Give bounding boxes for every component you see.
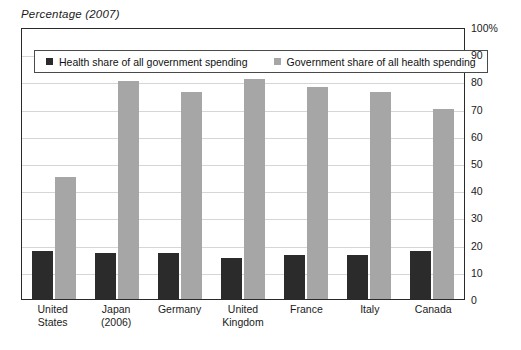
x-axis-tick-label: UnitedStates bbox=[21, 303, 84, 329]
x-axis-tick-label: France bbox=[275, 303, 338, 329]
x-axis-tick-label-line: Germany bbox=[148, 303, 211, 316]
x-axis-tick-label-line: Italy bbox=[338, 303, 401, 316]
legend-label: Government share of all health spending bbox=[287, 56, 476, 68]
y-axis-tick-label: 100% bbox=[471, 22, 498, 34]
chart-figure: Percentage (2007) Health share of all go… bbox=[0, 0, 521, 350]
y-axis-tick-label: 60 bbox=[471, 131, 483, 143]
x-axis-tick-label: UnitedKingdom bbox=[211, 303, 274, 329]
bar bbox=[118, 81, 139, 299]
bar bbox=[433, 109, 454, 299]
bar bbox=[221, 258, 242, 299]
y-axis-tick-label: 10 bbox=[471, 267, 483, 279]
legend-swatch-icon bbox=[274, 58, 281, 65]
x-axis-tick-label-line: Canada bbox=[402, 303, 465, 316]
bar bbox=[347, 255, 368, 299]
x-axis-tick-label-line: United bbox=[21, 303, 84, 316]
bar bbox=[370, 92, 391, 299]
y-axis-tick-label: 20 bbox=[471, 240, 483, 252]
legend-entry: Health share of all government spending bbox=[46, 56, 248, 68]
y-axis-tick-label: 40 bbox=[471, 185, 483, 197]
bar bbox=[181, 92, 202, 299]
bar bbox=[32, 251, 53, 299]
y-axis-tick-label: 30 bbox=[471, 212, 483, 224]
x-axis-tick-label-line: Kingdom bbox=[211, 316, 274, 329]
x-axis-tick-label-line: (2006) bbox=[84, 316, 147, 329]
y-axis-tick-label: 50 bbox=[471, 158, 483, 170]
y-axis-tick-label: 70 bbox=[471, 104, 483, 116]
legend-label: Health share of all government spending bbox=[59, 56, 248, 68]
legend-swatch-icon bbox=[46, 58, 53, 65]
y-axis-tick-label: 80 bbox=[471, 76, 483, 88]
x-axis-tick-label-line: United bbox=[211, 303, 274, 316]
x-axis-tick-label: Japan(2006) bbox=[84, 303, 147, 329]
y-axis-tick-label: 90 bbox=[471, 49, 483, 61]
y-axis: 0102030405060708090100% bbox=[471, 28, 517, 300]
page-title: Percentage (2007) bbox=[21, 8, 120, 20]
x-axis-tick-label: Germany bbox=[148, 303, 211, 329]
x-axis-tick-label-line: Japan bbox=[84, 303, 147, 316]
bar bbox=[410, 251, 431, 299]
x-axis-tick-label-line: France bbox=[275, 303, 338, 316]
x-axis-tick-label-line: States bbox=[21, 316, 84, 329]
x-axis-tick-label: Canada bbox=[402, 303, 465, 329]
bar bbox=[244, 79, 265, 299]
legend-entry: Government share of all health spending bbox=[274, 56, 476, 68]
x-axis: UnitedStatesJapan(2006)GermanyUnitedKing… bbox=[21, 303, 465, 329]
y-axis-tick-label: 0 bbox=[471, 294, 477, 306]
bar bbox=[307, 87, 328, 299]
bar bbox=[55, 177, 76, 299]
chart-legend: Health share of all government spendingG… bbox=[34, 50, 488, 73]
x-axis-tick-label: Italy bbox=[338, 303, 401, 329]
bar bbox=[158, 253, 179, 299]
bar bbox=[95, 253, 116, 299]
bar bbox=[284, 255, 305, 299]
